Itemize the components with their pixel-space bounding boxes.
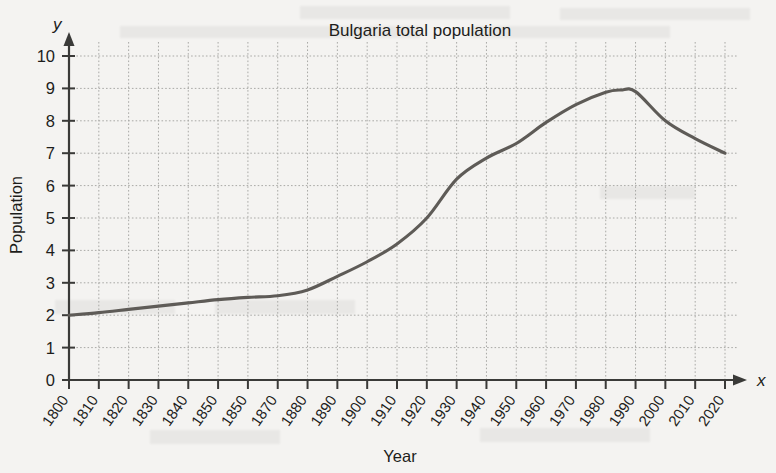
- y-tick-label: 4: [46, 241, 55, 259]
- x-axis-title: Year: [383, 447, 417, 465]
- x-tick-label: 1850: [217, 392, 250, 429]
- y-tick-label: 0: [46, 371, 55, 389]
- x-tick-label: 1840: [158, 392, 191, 429]
- x-tick-label: 1950: [486, 392, 519, 429]
- x-tick-label: 1810: [68, 392, 101, 429]
- y-tick-label: 3: [46, 274, 55, 292]
- x-tick-label: 1990: [605, 392, 638, 429]
- y-tick-label: 2: [46, 306, 55, 324]
- y-tick-label: 7: [46, 144, 55, 162]
- y-tick-label: 9: [46, 79, 55, 97]
- x-tick-label: 1940: [456, 392, 489, 429]
- x-tick-label: 1900: [337, 392, 370, 429]
- chart-title: Bulgaria total population: [329, 21, 511, 40]
- y-tick-label: 1: [46, 339, 55, 357]
- x-tick-label: 1880: [277, 392, 310, 429]
- y-axis-arrow: [64, 32, 75, 46]
- y-tick-label: 5: [46, 209, 55, 227]
- x-tick-label: 1930: [426, 392, 459, 429]
- x-tick-label: 1870: [247, 392, 280, 429]
- x-tick-label: 2000: [635, 392, 668, 429]
- x-axis-ticks: [69, 380, 725, 389]
- y-tick-label: 8: [46, 112, 55, 130]
- x-tick-label: 1980: [575, 392, 608, 429]
- x-tick-label: 1970: [545, 392, 578, 429]
- x-tick-label: 1910: [366, 392, 399, 429]
- chart-container: 012345678910 180018101820183018401850185…: [0, 0, 776, 473]
- x-tick-label: 2010: [665, 392, 698, 429]
- x-tick-label: 1920: [396, 392, 429, 429]
- x-tick-label: 1850: [187, 392, 220, 429]
- x-tick-label: 1960: [515, 392, 548, 429]
- x-tick-label: 1820: [98, 392, 131, 429]
- y-axis-title: Population: [7, 176, 25, 254]
- x-axis-arrow: [733, 375, 747, 386]
- y-tick-label: 6: [46, 177, 55, 195]
- x-axis-tick-labels: 1800181018201830184018501850187018801890…: [38, 392, 727, 429]
- x-tick-label: 1890: [307, 392, 340, 429]
- x-tick-label: 1830: [128, 392, 161, 429]
- y-axis-tick-labels: 012345678910: [37, 47, 55, 389]
- y-tick-label: 10: [37, 47, 55, 65]
- x-tick-label: 2020: [694, 392, 727, 429]
- x-tick-label: 1800: [38, 392, 71, 429]
- axes: [64, 32, 748, 386]
- population-line-chart: 012345678910 180018101820183018401850185…: [0, 0, 776, 473]
- x-axis-symbol: x: [756, 371, 766, 390]
- y-axis-symbol: y: [52, 15, 63, 34]
